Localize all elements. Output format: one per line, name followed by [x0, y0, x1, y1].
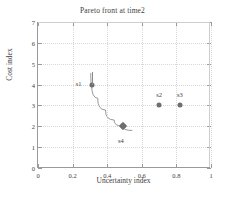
- y-tick-label: 1: [32, 144, 35, 151]
- y-tick-label: 6: [32, 39, 35, 46]
- y-tick: [38, 126, 42, 127]
- plot-frame-top: [38, 22, 210, 23]
- y-gridline: [38, 105, 210, 106]
- y-tick: [38, 147, 42, 148]
- y-gridline: [38, 85, 210, 86]
- y-tick-label: 0: [32, 165, 35, 172]
- y-tick-label: 2: [32, 123, 35, 130]
- x-tick: [211, 164, 212, 168]
- data-point-s2[interactable]: [157, 103, 162, 108]
- y-tick-label: 5: [32, 60, 35, 67]
- x-tick: [38, 164, 39, 168]
- y-axis-title: Cost index: [5, 15, 14, 115]
- y-tick: [38, 43, 42, 44]
- plot-frame-right: [209, 22, 210, 167]
- x-tick: [107, 164, 108, 168]
- plot-area: 00.20.40.60.8101234567s1s4s2s3: [37, 22, 210, 168]
- y-gridline: [38, 147, 210, 148]
- x-tick: [73, 164, 74, 168]
- x-axis-title: Uncertainty index: [37, 176, 210, 185]
- y-tick: [38, 168, 42, 169]
- y-tick: [38, 105, 42, 106]
- x-tick: [176, 164, 177, 168]
- pareto-curve: [38, 22, 211, 168]
- point-label-s3: s3: [177, 91, 183, 98]
- point-label-s2: s2: [156, 91, 162, 98]
- y-tick-label: 4: [32, 81, 35, 88]
- y-tick: [38, 64, 42, 65]
- chart-title: Pareto front at time2: [0, 6, 225, 15]
- y-gridline: [38, 43, 210, 44]
- x-tick: [142, 164, 143, 168]
- data-point-s4-overlap[interactable]: [120, 124, 125, 129]
- y-tick-label: 7: [32, 19, 35, 26]
- x-gridline: [211, 22, 212, 167]
- y-gridline: [38, 64, 210, 65]
- pareto-front-figure: Pareto front at time2 00.20.40.60.810123…: [0, 0, 225, 198]
- s1-stem-line: [92, 72, 93, 85]
- y-tick-label: 3: [32, 102, 35, 109]
- y-tick-right: [207, 168, 211, 169]
- y-tick: [38, 85, 42, 86]
- point-label-s4: s4: [118, 137, 124, 144]
- x-tick-top: [211, 22, 212, 26]
- data-point-s3[interactable]: [177, 103, 182, 108]
- point-label-s1: s1: [76, 79, 82, 86]
